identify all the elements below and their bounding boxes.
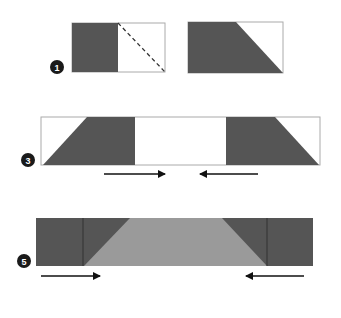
step-1-badge: 1 xyxy=(50,60,64,74)
step-3-group: 3 xyxy=(21,117,320,174)
step-1-group: 1 xyxy=(50,22,283,74)
svg-text:3: 3 xyxy=(25,156,30,166)
step-1-rect-sewn xyxy=(188,22,283,73)
quilt-block-diagram: 1 3 5 xyxy=(0,0,341,318)
step-5-badge: 5 xyxy=(17,254,31,268)
step-5-group: 5 xyxy=(17,218,313,276)
svg-text:1: 1 xyxy=(54,63,59,73)
step-1-rect-marked xyxy=(72,23,165,72)
step-3-badge: 3 xyxy=(21,153,35,167)
svg-text:5: 5 xyxy=(21,257,26,267)
